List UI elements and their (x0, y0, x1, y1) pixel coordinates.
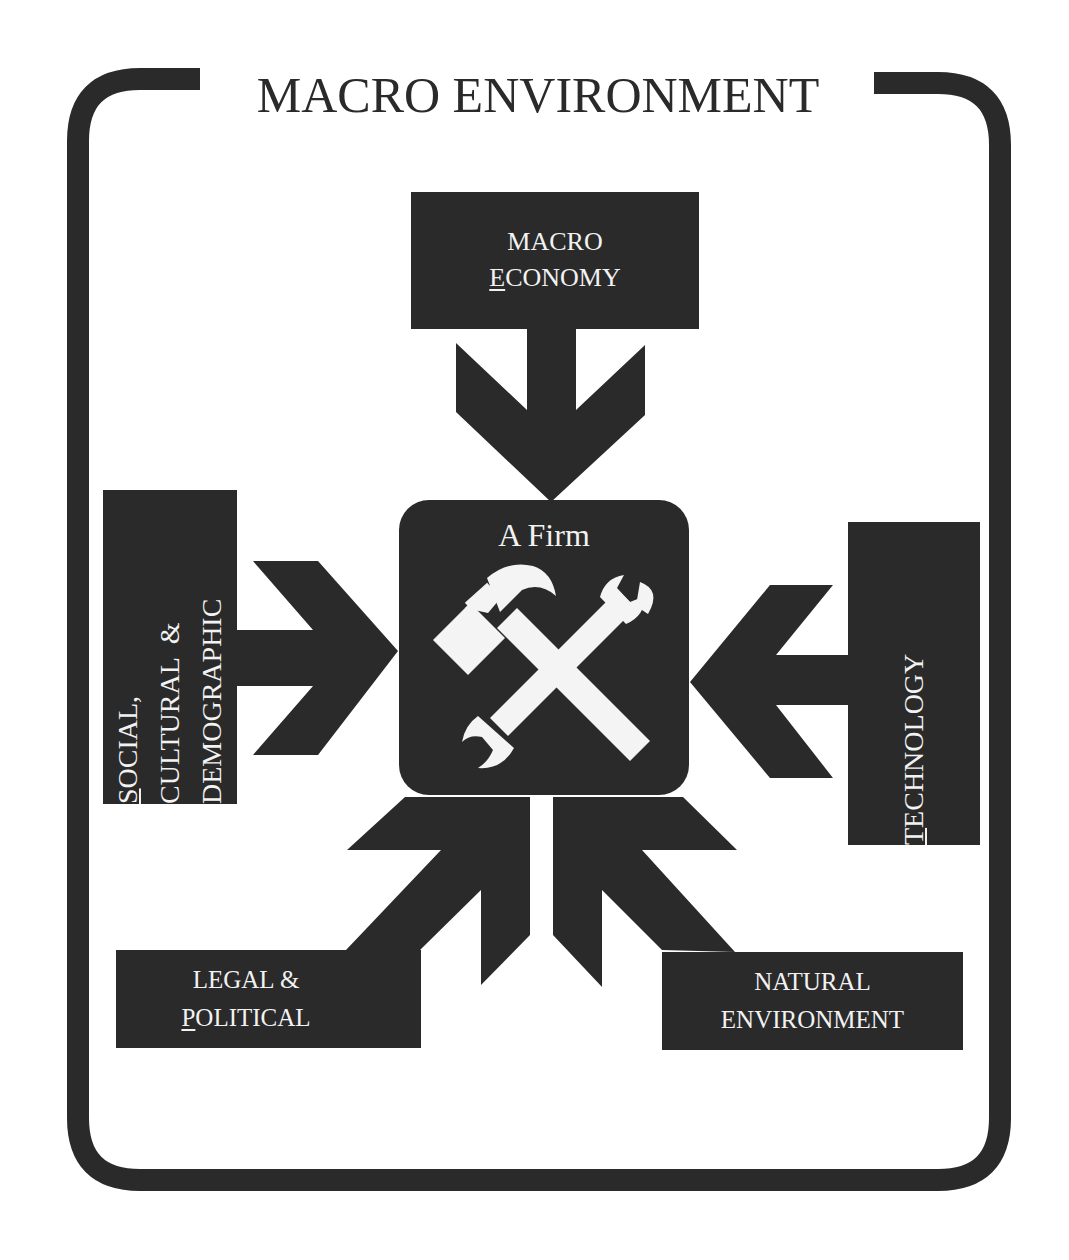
underlined-initial: T (898, 828, 929, 845)
firm-label: A Firm (399, 515, 689, 555)
line-rest: CONOMY (505, 263, 621, 292)
technology-label: TECHNOLOGY (848, 522, 980, 845)
social-cultural-demographic-label: SOCIAL, CULTURAL & DEMOGRAPHIC (103, 490, 237, 804)
underlined-initial: P (181, 1004, 195, 1031)
environment-line: ENVIRONMENT (721, 1001, 904, 1039)
line-rest: OLITICAL (195, 1004, 310, 1031)
underlined-initial: S (112, 788, 143, 804)
arrow-left-icon (690, 585, 849, 778)
political-line: POLITICAL (181, 999, 310, 1037)
demographic-line: DEMOGRAPHIC (191, 490, 233, 804)
legal-line: LEGAL & (193, 961, 300, 999)
legal-political-label: LEGAL & POLITICAL (116, 950, 376, 1048)
diagram-title: MACRO ENVIRONMENT (206, 60, 870, 130)
arrow-down-icon (456, 328, 645, 502)
line-rest: ECHNOLOGY (898, 654, 929, 828)
natural-environment-label: NATURAL ENVIRONMENT (662, 952, 963, 1050)
macro-economy-line2: ECONOMY (489, 260, 620, 296)
natural-line: NATURAL (754, 963, 871, 1001)
line-rest: OCIAL, (112, 696, 143, 789)
macro-economy-line1: MACRO (507, 224, 602, 260)
macro-environment-diagram: MACRO ENVIRONMENT MACRO ECONOMY SOCIAL, … (0, 0, 1069, 1260)
social-line: SOCIAL, (107, 490, 149, 804)
underlined-initial: E (489, 263, 505, 292)
macro-economy-label: MACRO ECONOMY (411, 205, 699, 315)
technology-line: TECHNOLOGY (896, 522, 932, 845)
cultural-line: CULTURAL & (149, 490, 191, 804)
arrow-right-icon (236, 561, 398, 755)
